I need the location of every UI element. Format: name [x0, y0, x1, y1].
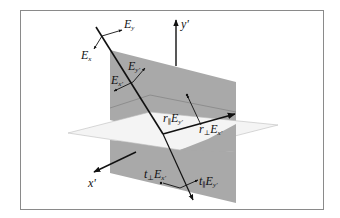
x-prime-label: x'	[87, 176, 96, 190]
vector-dot	[160, 182, 162, 184]
wave-interface-diagram: y' x' Ey Ex Ey' Ex' r∥Ey' r⊥Ex' t⊥Ex' t∥…	[0, 0, 340, 218]
vector-dot	[186, 94, 188, 96]
y-prime-label: y'	[180, 17, 189, 31]
